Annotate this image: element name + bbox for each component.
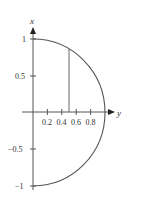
horizontal-axis-arrow-icon [108,109,115,115]
h-tick-label-0.2: 0.2 [42,118,52,127]
h-tick-label-0.6: 0.6 [71,118,81,127]
v-tick-label-neg0.5: −0.5 [8,145,23,154]
v-tick-label-0.5: 0.5 [15,72,25,81]
v-tick-label-neg1: −1 [15,182,24,191]
h-tick-label-0.8: 0.8 [86,118,96,127]
v-tick-label-1: 1 [22,35,26,44]
vertical-axis-label: x [29,16,34,26]
vertical-axis-arrow-icon [30,27,36,34]
semicircle-diagram: x y 1 0.5 −0.5 −1 0.2 0.4 0.6 0.8 [0,0,144,204]
h-tick-label-0.4: 0.4 [57,118,67,127]
horizontal-axis-label: y [116,108,121,118]
